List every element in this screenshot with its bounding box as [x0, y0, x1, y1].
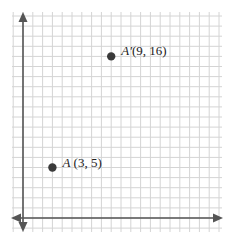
y-axis-arrow-down-icon — [19, 222, 28, 232]
grid — [12, 12, 222, 232]
y-axis-arrow-up-icon — [19, 12, 28, 22]
x-axis-arrow-left-icon — [11, 214, 21, 223]
point-label-a-prime: A′(9, 16) — [120, 43, 166, 58]
y-axis — [19, 12, 28, 232]
point-label-a: A (3, 5) — [61, 155, 101, 170]
point-a-prime — [107, 52, 115, 60]
x-axis-arrow-right-icon — [213, 214, 223, 223]
coordinate-plane: A (3, 5)A′(9, 16) — [0, 0, 233, 244]
point-a — [48, 163, 56, 171]
points: A (3, 5)A′(9, 16) — [48, 43, 166, 171]
